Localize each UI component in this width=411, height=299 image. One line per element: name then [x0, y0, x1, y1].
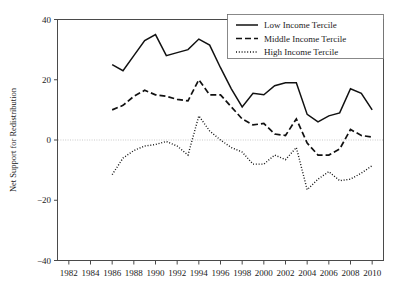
y-axis-title: Net Support for Redistribution: [8, 87, 18, 192]
x-tick-label: 2010: [363, 268, 382, 278]
x-tick-label: 1996: [212, 268, 231, 278]
y-tick-label: 40: [42, 15, 52, 25]
x-tick-label: 2006: [320, 268, 339, 278]
x-tick-label: 1988: [125, 268, 144, 278]
x-axis: 1982198419861988199019921994199619982000…: [60, 261, 382, 278]
x-tick-label: 2008: [342, 268, 361, 278]
x-tick-label: 2002: [277, 268, 295, 278]
x-tick-label: 1994: [190, 268, 209, 278]
x-tick-label: 2000: [255, 268, 274, 278]
chart-legend: Low Income TercileMiddle Income TercileH…: [228, 15, 384, 59]
y-tick-label: 20: [42, 75, 52, 85]
x-tick-label: 1982: [60, 268, 78, 278]
chart-container: 40200−20−40 1982198419861988199019921994…: [0, 0, 411, 299]
x-tick-label: 1984: [82, 268, 101, 278]
x-tick-label: 1986: [103, 268, 122, 278]
line-chart: 40200−20−40 1982198419861988199019921994…: [0, 0, 411, 299]
legend-label-middle-income-tercile: Middle Income Tercile: [264, 34, 346, 44]
x-tick-label: 2004: [298, 268, 317, 278]
x-tick-label: 1990: [147, 268, 166, 278]
series-line-high-income-tercile: [112, 116, 372, 190]
legend-label-high-income-tercile: High Income Tercile: [264, 47, 338, 57]
y-tick-label: −20: [37, 195, 52, 205]
legend-label-low-income-tercile: Low Income Tercile: [264, 20, 337, 30]
series-line-middle-income-tercile: [112, 80, 372, 155]
x-tick-label: 1992: [168, 268, 186, 278]
x-tick-label: 1998: [233, 268, 252, 278]
y-tick-label: −40: [37, 256, 52, 266]
y-tick-label: 0: [47, 135, 52, 145]
y-axis: 40200−20−40: [37, 15, 58, 266]
